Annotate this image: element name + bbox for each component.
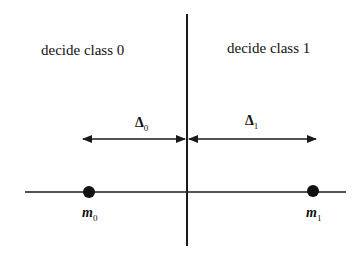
mean1-label: m1 bbox=[306, 205, 321, 223]
mean1-dot bbox=[307, 185, 319, 197]
mean0-label: m0 bbox=[82, 205, 97, 223]
mean0-dot bbox=[83, 186, 95, 198]
region-label-class1: decide class 1 bbox=[227, 40, 310, 57]
delta1-label: Δ1 bbox=[245, 113, 258, 131]
region-label-class0: decide class 0 bbox=[41, 42, 124, 59]
delta0-label: Δ0 bbox=[135, 115, 148, 133]
